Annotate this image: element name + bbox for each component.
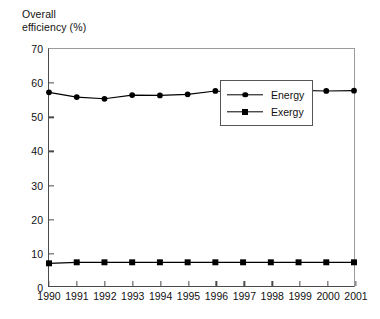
x-axis-tick-label: 2001 (344, 286, 367, 302)
x-axis-tick-label: 1999 (288, 286, 311, 302)
data-point-exergy (323, 259, 329, 265)
data-point-energy (351, 88, 357, 94)
y-axis-tick-label: 60 (31, 77, 49, 89)
data-point-energy (157, 93, 163, 99)
y-axis-tick-mark (49, 117, 54, 118)
data-point-exergy (185, 259, 191, 265)
y-axis-tick-mark (49, 253, 54, 254)
y-axis-tick-mark (49, 151, 54, 152)
x-axis-tick-label: 1997 (233, 286, 256, 302)
data-point-exergy (240, 259, 246, 265)
y-axis-label: Overall efficiency (%) (22, 8, 86, 34)
legend-label-energy: Energy (271, 89, 304, 101)
legend-label-exergy: Exergy (271, 106, 304, 118)
data-point-energy (185, 91, 191, 97)
y-axis-tick-label: 30 (31, 180, 49, 192)
y-axis-tick-mark (49, 185, 54, 186)
x-axis-tick-label: 1995 (177, 286, 200, 302)
y-axis-tick-mark (49, 82, 54, 83)
data-point-energy (323, 88, 329, 94)
data-point-energy (212, 88, 218, 94)
x-axis-tick-label: 1996 (205, 286, 228, 302)
data-point-energy (46, 89, 52, 95)
data-point-exergy (74, 259, 80, 265)
data-point-exergy (129, 259, 135, 265)
y-axis-tick-label: 40 (31, 145, 49, 157)
y-axis-tick-label: 10 (31, 248, 49, 260)
y-axis-tick-mark (49, 219, 54, 220)
y-axis-tick-label: 70 (31, 43, 49, 55)
y-axis-tick-label: 20 (31, 214, 49, 226)
chart-figure: Overall efficiency (%) 01020304050607019… (0, 0, 380, 319)
chart-legend: Energy Exergy (220, 80, 313, 126)
data-point-exergy (157, 259, 163, 265)
square-marker-icon (227, 106, 263, 118)
circle-marker-icon (227, 89, 263, 101)
legend-item-energy: Energy (227, 86, 304, 103)
data-point-energy (102, 96, 108, 102)
data-point-exergy (101, 259, 107, 265)
data-point-energy (129, 92, 135, 98)
data-point-exergy (351, 259, 357, 265)
x-axis-tick-label: 1990 (37, 286, 60, 302)
data-point-exergy (212, 259, 218, 265)
series-line-exergy (49, 262, 354, 263)
x-axis-tick-label: 1993 (121, 286, 144, 302)
x-axis-tick-label: 1992 (93, 286, 116, 302)
x-axis-tick-label: 1994 (149, 286, 172, 302)
x-axis-tick-label: 2000 (316, 286, 339, 302)
data-point-energy (74, 94, 80, 100)
x-axis-tick-label: 1991 (65, 286, 88, 302)
x-axis-tick-label: 1998 (261, 286, 284, 302)
y-axis-tick-label: 50 (31, 111, 49, 123)
legend-item-exergy: Exergy (227, 103, 304, 120)
data-point-exergy (46, 260, 52, 266)
data-point-exergy (296, 259, 302, 265)
data-point-exergy (268, 259, 274, 265)
